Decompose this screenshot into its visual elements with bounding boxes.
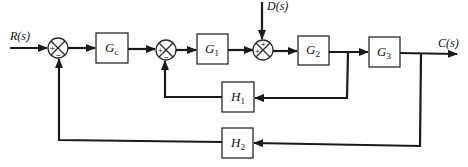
sum1-plus-sign: + — [50, 44, 55, 53]
sum1-minus-sign: − — [56, 51, 61, 60]
svg-text:R(s): R(s) — [9, 29, 30, 43]
output-label: C(s) — [438, 36, 459, 50]
input-label: R(s) — [9, 29, 30, 43]
block-g1: G1 — [197, 34, 228, 64]
block-g3: G3 — [369, 37, 400, 67]
sum3-top-plus-sign: + — [261, 40, 266, 49]
sum2-plus-sign: + — [158, 46, 163, 55]
svg-text:C(s): C(s) — [438, 36, 459, 50]
block-g2: G2 — [298, 36, 329, 65]
block-gc: Gc — [96, 33, 128, 63]
disturbance-signal: D(s) — [262, 0, 288, 39]
summing-junction-2: + − — [156, 40, 176, 62]
summing-junction-1: + − — [48, 38, 68, 60]
sum3-left-plus-sign: + — [255, 47, 260, 56]
disturbance-label: D(s) — [266, 0, 288, 13]
sum2-minus-sign: − — [164, 53, 169, 62]
output-signal: C(s) — [400, 36, 459, 54]
summing-junction-3: + + — [253, 40, 273, 60]
input-signal: R(s) — [9, 29, 47, 48]
block-diagram: R(s) + − Gc + − G1 D(s) + + — [0, 0, 468, 167]
svg-text:D(s): D(s) — [266, 0, 288, 13]
